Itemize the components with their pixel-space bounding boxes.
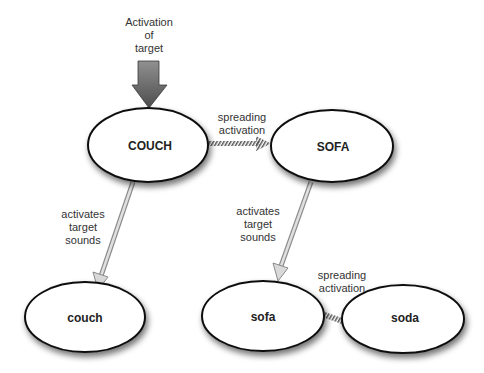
target-activation-arrow-icon bbox=[132, 61, 167, 108]
edge-label-line: spreading bbox=[318, 269, 366, 282]
edge-COUCH-SOFA bbox=[208, 136, 271, 151]
target-activation-line-3: target bbox=[125, 42, 173, 55]
edge-label-COUCH-couch: activates target sounds bbox=[61, 208, 104, 247]
edge-label-line: spreading bbox=[218, 111, 266, 124]
edge-label-line: activation bbox=[318, 282, 366, 295]
target-activation-label: Activation of target bbox=[125, 16, 173, 55]
node-label-SOFA: SOFA bbox=[317, 140, 350, 154]
node-label-COUCH: COUCH bbox=[128, 139, 172, 153]
node-label-sofa: sofa bbox=[251, 310, 276, 324]
target-activation-line-1: Activation bbox=[125, 16, 173, 29]
edge-label-sofa-soda: spreading activation bbox=[318, 269, 366, 295]
target-activation-line-2: of bbox=[125, 29, 173, 42]
edge-sofa-soda bbox=[325, 312, 342, 324]
edge-label-line: sounds bbox=[236, 231, 279, 244]
node-label-couch: couch bbox=[67, 311, 102, 325]
edge-label-SOFA-sofa: activates target sounds bbox=[236, 205, 279, 244]
edge-label-line: activates bbox=[236, 205, 279, 218]
edge-label-COUCH-SOFA: spreading activation bbox=[218, 111, 266, 137]
edge-label-line: activation bbox=[218, 124, 266, 137]
edge-label-line: activates bbox=[61, 208, 104, 221]
edge-label-line: target bbox=[61, 221, 104, 234]
node-label-soda: soda bbox=[391, 311, 419, 325]
edge-label-line: target bbox=[236, 218, 279, 231]
edge-label-line: sounds bbox=[61, 234, 104, 247]
